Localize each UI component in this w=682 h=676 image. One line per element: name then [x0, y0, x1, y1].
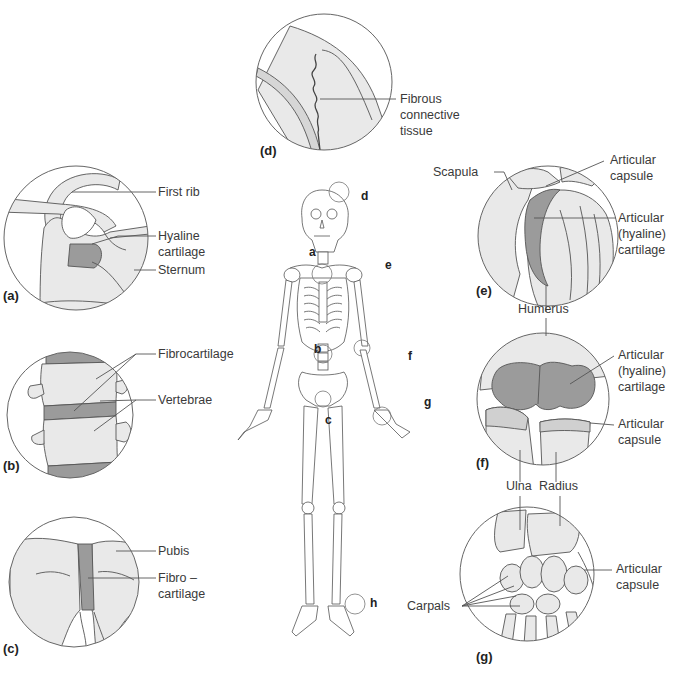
- skeleton-marker-b: b: [314, 342, 321, 356]
- label-f-cartilage-line2: (hyaline): [618, 364, 666, 378]
- label-sternum: Sternum: [158, 263, 205, 277]
- panel-a-illustration: [0, 160, 160, 320]
- label-radius: Radius: [539, 479, 578, 493]
- joint-diagram: [0, 0, 682, 676]
- skeleton-marker-f: f: [408, 349, 412, 363]
- label-ulna: Ulna: [506, 479, 532, 493]
- skeleton-marker-h: h: [370, 596, 377, 610]
- panel-letter-b: (b): [3, 458, 20, 473]
- panel-letter-c: (c): [3, 641, 19, 656]
- label-f-cartilage-line1: Articular: [618, 348, 664, 362]
- label-fibro-cartilage-line1: Fibro –: [158, 571, 197, 585]
- label-g-articular-capsule-line1: Articular: [616, 562, 662, 576]
- label-f-cartilage-line3: cartilage: [618, 380, 665, 394]
- label-fibrous-line2: connective: [400, 108, 460, 122]
- label-e-articular-capsule-line1: Articular: [610, 153, 656, 167]
- skeleton-marker-c: c: [325, 413, 332, 427]
- label-e-articular-capsule-line2: capsule: [610, 169, 653, 183]
- label-fibro-cartilage-line2: cartilage: [158, 587, 205, 601]
- panel-letter-e: (e): [476, 283, 492, 298]
- panel-b-illustration: [0, 345, 156, 480]
- label-fibrous-line1: Fibrous: [400, 92, 442, 106]
- label-pubis: Pubis: [158, 544, 189, 558]
- skeleton-marker-a: a: [309, 245, 316, 259]
- skeleton-marker-d: d: [361, 189, 368, 203]
- label-e-cartilage-line3: cartilage: [618, 243, 665, 257]
- label-fibrocartilage: Fibrocartilage: [158, 347, 234, 361]
- label-f-articular-capsule-line1: Articular: [618, 417, 664, 431]
- panel-letter-d: (d): [260, 143, 277, 158]
- skeleton-illustration: [238, 182, 410, 636]
- label-g-articular-capsule-line2: capsule: [616, 578, 659, 592]
- label-hyaline-cartilage-line2: cartilage: [158, 245, 205, 259]
- label-e-cartilage-line1: Articular: [618, 211, 664, 225]
- panel-e-illustration: [470, 160, 630, 320]
- panel-d-illustration: [250, 10, 400, 160]
- panel-letter-f: (f): [476, 455, 489, 470]
- panel-letter-a: (a): [3, 288, 19, 303]
- label-fibrous-line3: tissue: [400, 124, 433, 138]
- label-hyaline-cartilage-line1: Hyaline: [158, 229, 200, 243]
- panel-c-illustration: [0, 510, 156, 660]
- skeleton-marker-g: g: [424, 395, 431, 409]
- label-humerus: Humerus: [518, 302, 569, 316]
- label-f-articular-capsule-line2: capsule: [618, 433, 661, 447]
- label-e-cartilage-line2: (hyaline): [618, 227, 666, 241]
- skeleton-marker-e: e: [385, 258, 392, 272]
- panel-g-illustration: [455, 496, 612, 645]
- label-carpals: Carpals: [407, 599, 450, 613]
- label-first-rib: First rib: [158, 185, 200, 199]
- label-scapula: Scapula: [433, 165, 478, 179]
- label-vertebrae: Vertebrae: [158, 393, 212, 407]
- panel-f-illustration: [470, 318, 620, 482]
- panel-letter-g: (g): [476, 649, 493, 664]
